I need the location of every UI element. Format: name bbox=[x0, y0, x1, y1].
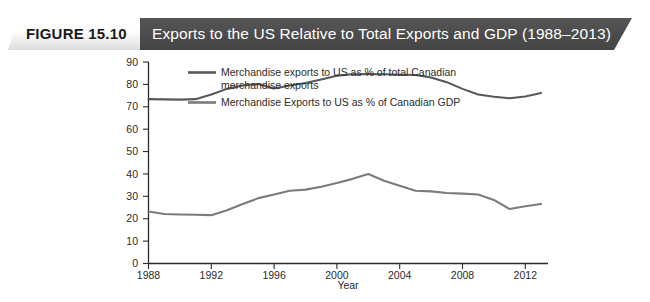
y-axis-tick-labels: 0102030405060708090 bbox=[126, 56, 138, 270]
figure-number-label: FIGURE 15.10 bbox=[26, 18, 127, 50]
y-axis-tick-label: 90 bbox=[126, 56, 138, 68]
chart-area: 0102030405060708090 19881992199620002004… bbox=[0, 50, 650, 302]
y-axis-tick-label: 60 bbox=[126, 123, 138, 135]
y-axis-tick-label: 10 bbox=[126, 235, 138, 247]
figure-header: FIGURE 15.10 Exports to the US Relative … bbox=[0, 18, 650, 50]
x-axis-tick-label: 1996 bbox=[262, 269, 286, 281]
line-chart: 0102030405060708090 19881992199620002004… bbox=[0, 50, 650, 302]
y-axis-tick-label: 20 bbox=[126, 212, 138, 224]
y-axis-ticks bbox=[143, 62, 149, 264]
y-axis-tick-label: 30 bbox=[126, 190, 138, 202]
x-axis-tick-label: 2012 bbox=[514, 269, 538, 281]
legend-label-series-1-line-1: Merchandise exports to US as % of total … bbox=[221, 66, 456, 78]
y-axis-tick-label: 40 bbox=[126, 168, 138, 180]
legend-label-series-1-line-2: merchandise exports bbox=[221, 79, 318, 91]
legend-label-series-2: Merchandise Exports to US as % of Canadi… bbox=[221, 96, 460, 108]
y-axis-tick-label: 0 bbox=[132, 257, 138, 269]
x-axis-tick-label: 1988 bbox=[137, 269, 161, 281]
x-axis-tick-label: 1992 bbox=[200, 269, 224, 281]
y-axis-tick-label: 80 bbox=[126, 78, 138, 90]
y-axis-tick-label: 50 bbox=[126, 145, 138, 157]
y-axis-tick-label: 70 bbox=[126, 100, 138, 112]
x-axis-tick-label: 2004 bbox=[388, 269, 412, 281]
x-axis-title: Year bbox=[337, 279, 359, 291]
figure-title-text: Exports to the US Relative to Total Expo… bbox=[152, 18, 611, 50]
x-axis-tick-label: 2008 bbox=[451, 269, 475, 281]
series-line-exports-share-of-gdp bbox=[149, 174, 542, 215]
